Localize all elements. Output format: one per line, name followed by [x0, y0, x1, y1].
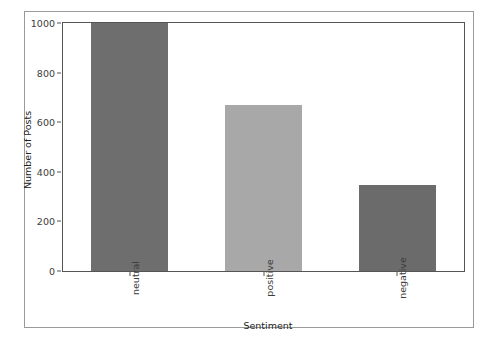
- y-tick-mark: [57, 271, 61, 272]
- x-tick-label-neutral: neutral: [130, 261, 141, 295]
- y-tick-label: 0: [49, 266, 55, 277]
- bar-positive: [225, 105, 302, 271]
- plot-area: [63, 23, 464, 271]
- y-tick-mark: [57, 122, 61, 123]
- y-tick-mark: [57, 72, 61, 73]
- figure: 02004006008001000 Number of Posts Sentim…: [0, 0, 487, 343]
- y-tick-mark: [57, 171, 61, 172]
- y-tick-label: 600: [37, 117, 55, 128]
- y-axis-title: Number of Posts: [22, 111, 33, 189]
- x-tick-label-negative: negative: [397, 257, 408, 299]
- bar-neutral: [91, 23, 168, 271]
- y-tick-mark: [57, 221, 61, 222]
- y-tick-label: 1000: [31, 18, 55, 29]
- y-tick-label: 200: [37, 216, 55, 227]
- y-tick-mark: [57, 23, 61, 24]
- y-tick-label: 400: [37, 166, 55, 177]
- x-tick-label-positive: positive: [264, 259, 275, 296]
- x-axis-title: Sentiment: [243, 320, 292, 331]
- y-tick-label: 800: [37, 67, 55, 78]
